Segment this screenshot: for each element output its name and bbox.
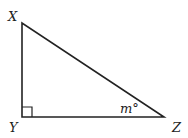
triangle-diagram: X Y Z m°	[0, 0, 188, 138]
vertex-label-y: Y	[9, 120, 19, 135]
triangle-xyz	[22, 23, 164, 117]
right-angle-marker	[22, 107, 32, 117]
vertex-label-z: Z	[171, 120, 182, 135]
angle-label-m: m°	[120, 101, 139, 116]
vertex-label-x: X	[7, 9, 18, 24]
